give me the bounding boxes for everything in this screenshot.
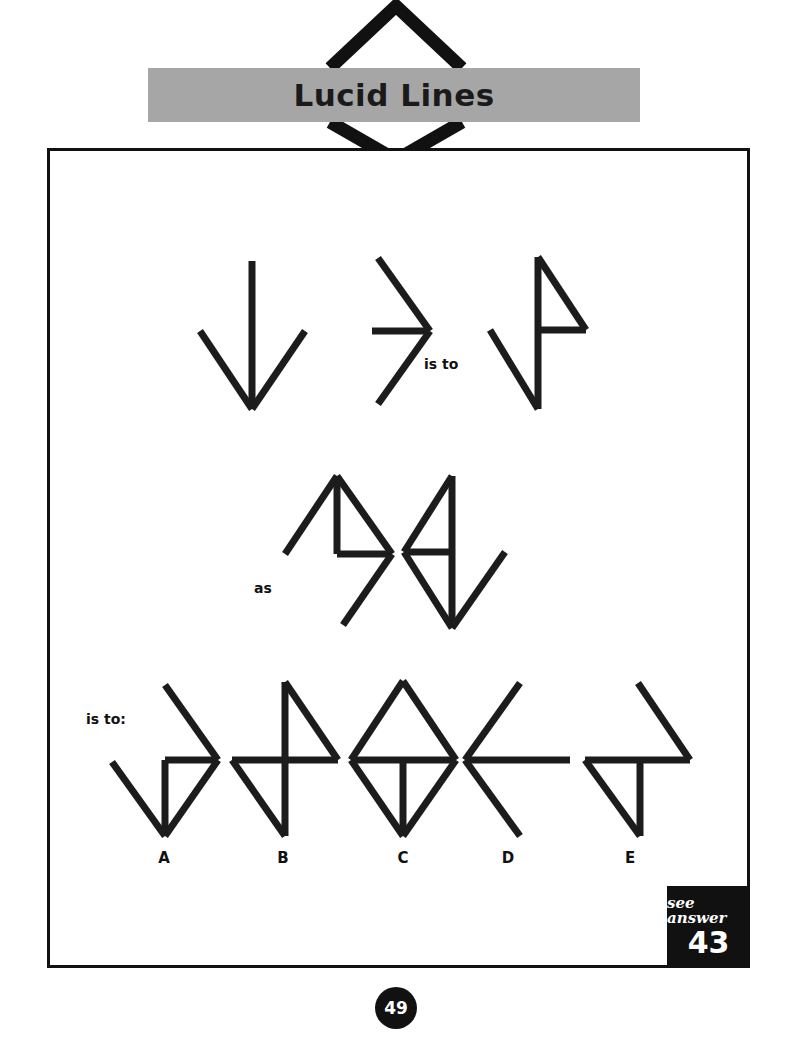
option-label-a[interactable]: A: [152, 849, 176, 867]
chevron-up-icon: [330, 6, 462, 68]
connector-is-to-second: is to:: [86, 711, 126, 727]
page-title: Lucid Lines: [293, 80, 494, 111]
see-answer-number: 43: [688, 928, 730, 958]
connector-is-to-first: is to: [424, 356, 458, 372]
see-answer-box[interactable]: see answer 43: [667, 886, 750, 968]
page-number-text: 49: [384, 998, 408, 1018]
page-header: Lucid Lines: [0, 0, 796, 160]
page-number-badge: 49: [375, 987, 417, 1029]
puzzle-page: Lucid Lines is to as is to: A B C D E se…: [0, 0, 796, 1053]
title-banner: Lucid Lines: [148, 68, 640, 122]
option-label-d[interactable]: D: [496, 849, 520, 867]
puzzle-frame: [47, 148, 750, 968]
option-label-b[interactable]: B: [271, 849, 295, 867]
option-label-e[interactable]: E: [618, 849, 642, 867]
connector-as: as: [254, 580, 272, 596]
see-answer-label: see answer: [667, 896, 750, 926]
option-label-c[interactable]: C: [391, 849, 415, 867]
